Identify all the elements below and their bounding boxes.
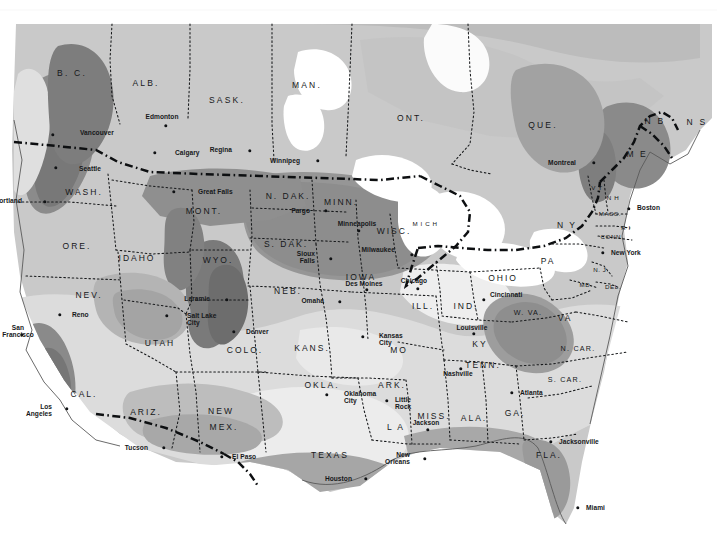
climate-zone-map: B. C.ALB.SASK.MAN.ONT.QUE.N BN S WASH.OR… xyxy=(0,0,717,554)
map-canvas xyxy=(0,0,717,554)
scan-artifact xyxy=(0,0,717,10)
